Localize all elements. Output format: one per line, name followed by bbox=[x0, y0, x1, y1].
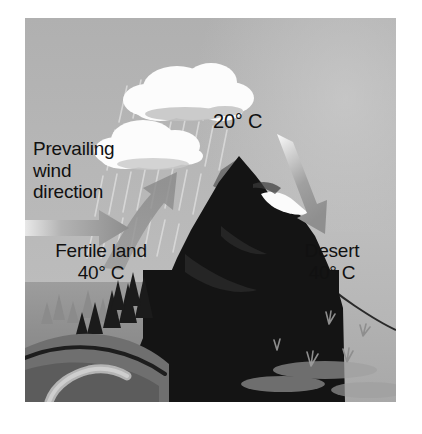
diagram-page: Prevailing wind direction Fertile land 4… bbox=[0, 0, 422, 434]
cloud-lower-shading bbox=[117, 158, 189, 170]
rain-shadow-illustration: Prevailing wind direction Fertile land 4… bbox=[25, 18, 396, 402]
prevailing-wind-label: Prevailing wind direction bbox=[33, 138, 114, 203]
fertile-land-label: Fertile land 40° C bbox=[31, 240, 171, 283]
summit-temperature-label: 20° C bbox=[213, 110, 262, 133]
scene-layer bbox=[25, 18, 396, 402]
desert-label: Desert 40° C bbox=[272, 240, 392, 283]
